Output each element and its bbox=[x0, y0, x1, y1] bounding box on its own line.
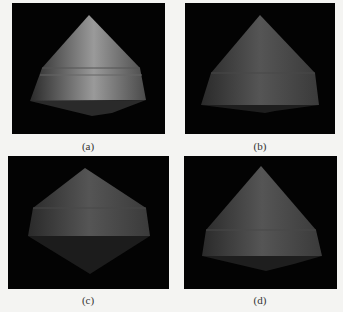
caption-d: (d) bbox=[230, 294, 290, 306]
panel-d-image bbox=[184, 156, 337, 289]
caption-a: (a) bbox=[58, 140, 118, 152]
panel-b-image bbox=[185, 3, 335, 134]
capsule-render-a bbox=[12, 3, 165, 134]
capsule-render-c bbox=[8, 156, 169, 289]
panel-a-image bbox=[12, 3, 165, 134]
panel-c-image bbox=[8, 156, 169, 289]
caption-c: (c) bbox=[58, 294, 118, 306]
caption-b: (b) bbox=[230, 140, 290, 152]
capsule-render-d bbox=[184, 156, 337, 289]
capsule-render-b bbox=[185, 3, 335, 134]
